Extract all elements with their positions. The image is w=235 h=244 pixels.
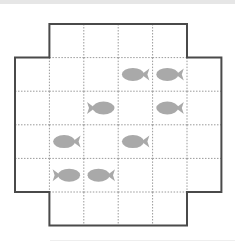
grid-cell-r0-c4[interactable] — [153, 24, 187, 58]
grid-cell-r2-c3[interactable] — [118, 91, 152, 125]
grid-cell-r3-c5[interactable] — [187, 125, 221, 159]
grid-cell-r5-c1[interactable] — [49, 192, 83, 226]
grid-cell-r5-c4[interactable] — [153, 192, 187, 226]
grid-cell-r5-c2[interactable] — [84, 192, 118, 226]
grid-cell-r1-c2[interactable] — [84, 58, 118, 92]
grid-cell-r5-c3[interactable] — [118, 192, 152, 226]
grid-cell-r4-c4[interactable] — [153, 158, 187, 192]
grid-cell-r0-c1[interactable] — [49, 24, 83, 58]
grid-cell-r0-c2[interactable] — [84, 24, 118, 58]
grid-cell-r1-c1[interactable] — [49, 58, 83, 92]
grid-cell-r3-c2[interactable] — [84, 125, 118, 159]
grid-cell-r0-c3[interactable] — [118, 24, 152, 58]
grid-cell-r3-c4[interactable] — [153, 125, 187, 159]
grid-cell-r3-c0[interactable] — [15, 125, 49, 159]
grid-cell-r1-c0[interactable] — [15, 58, 49, 92]
bottom-divider — [50, 240, 235, 241]
grid-cell-r2-c1[interactable] — [49, 91, 83, 125]
grid-lines — [15, 24, 221, 226]
grid-cell-r2-c5[interactable] — [187, 91, 221, 125]
grid-cell-r4-c5[interactable] — [187, 158, 221, 192]
grid-cell-r4-c0[interactable] — [15, 158, 49, 192]
grid-cell-r1-c5[interactable] — [187, 58, 221, 92]
grid-cell-r4-c3[interactable] — [118, 158, 152, 192]
puzzle-board — [0, 0, 235, 244]
grid-cell-r2-c0[interactable] — [15, 91, 49, 125]
